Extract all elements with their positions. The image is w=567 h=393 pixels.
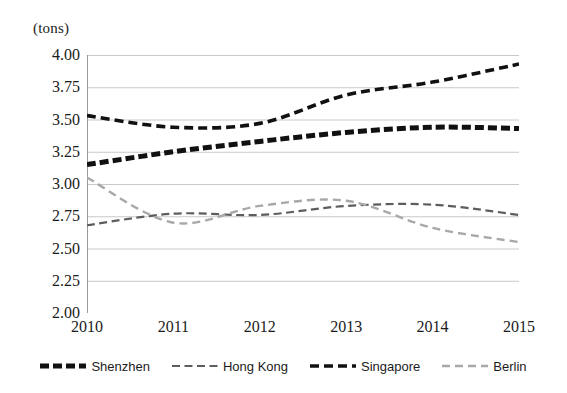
series-line-hong-kong [87, 204, 519, 225]
legend-swatch-shenzhen [40, 360, 86, 372]
legend-swatch-berlin [442, 360, 488, 372]
series-line-singapore [87, 64, 519, 128]
y-axis-tick-label: 3.00 [30, 175, 80, 193]
line-chart: (tons) 4.003.753.503.253.002.752.502.252… [0, 0, 567, 393]
legend-label: Berlin [493, 359, 526, 374]
series-line-shenzhen [87, 127, 519, 165]
y-axis-tick-label: 2.25 [30, 272, 80, 290]
y-axis-tick-label: 3.25 [30, 143, 80, 161]
x-axis-tick-label: 2013 [311, 318, 381, 336]
x-axis-tick-label: 2010 [52, 318, 122, 336]
y-axis-tick-label: 3.75 [30, 78, 80, 96]
legend-item-berlin[interactable]: Berlin [442, 359, 526, 374]
y-axis-tick-label: 4.00 [30, 46, 80, 64]
legend-label: Shenzhen [91, 359, 150, 374]
y-axis-tick-label: 2.75 [30, 207, 80, 225]
legend-item-singapore[interactable]: Singapore [310, 359, 420, 374]
chart-legend: ShenzhenHong KongSingaporeBerlin [0, 352, 567, 380]
y-axis-tick-label: 3.50 [30, 111, 80, 129]
legend-item-shenzhen[interactable]: Shenzhen [40, 359, 150, 374]
legend-swatch-hong-kong [172, 360, 218, 372]
x-axis-tick-label: 2012 [225, 318, 295, 336]
plot-area [87, 55, 519, 313]
y-axis-tick-label: 2.50 [30, 240, 80, 258]
x-axis-tick-label: 2015 [484, 318, 554, 336]
legend-label: Singapore [361, 359, 420, 374]
legend-swatch-singapore [310, 360, 356, 372]
legend-item-hong-kong[interactable]: Hong Kong [172, 359, 288, 374]
legend-label: Hong Kong [223, 359, 288, 374]
x-axis-tick-labels: 201020112012201320142015 [0, 318, 567, 344]
x-axis-tick-label: 2011 [138, 318, 208, 336]
plot-svg [87, 55, 519, 313]
x-axis-tick-label: 2014 [398, 318, 468, 336]
